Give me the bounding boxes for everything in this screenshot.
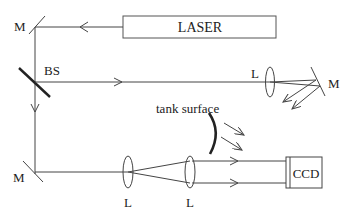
optical-setup-diagram: LASER M BS L M	[0, 0, 347, 219]
beam-laser-to-mirror	[35, 22, 123, 32]
beam-vertical	[31, 27, 39, 174]
mirror-right: M	[311, 67, 340, 96]
ccd-detector: CCD	[286, 157, 322, 188]
laser-label: LASER	[178, 20, 223, 35]
beams-between-lenses	[128, 161, 190, 183]
lens-bottom-2-label: L	[186, 195, 194, 210]
ccd-label: CCD	[293, 166, 320, 181]
lens-bottom-1: L	[123, 156, 133, 210]
mirror-top-left: M	[14, 16, 45, 34]
tank-surface: tank surface	[156, 101, 219, 154]
beams-to-ccd	[192, 157, 286, 187]
beam-splitter-label: BS	[44, 63, 60, 78]
beam-splitter: BS	[19, 63, 60, 97]
lens-bottom-1-label: L	[124, 195, 132, 210]
mirror-bottom-left-label: M	[13, 170, 25, 185]
beam-bs-to-lens	[35, 78, 270, 86]
mirror-top-left-label: M	[14, 19, 26, 34]
beams-to-right-mirror	[270, 80, 320, 86]
mirror-bottom-left: M	[13, 161, 43, 185]
lens-right-label: L	[251, 66, 259, 81]
scattered-beams	[221, 123, 244, 150]
laser-source: LASER	[123, 16, 276, 38]
mirror-right-label: M	[328, 76, 340, 91]
